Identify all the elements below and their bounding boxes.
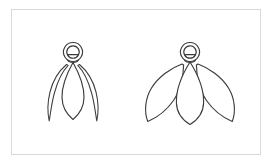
left-figure [48,43,98,122]
left-figure-head-ring-icon [63,43,82,62]
figure-canvas [0,0,270,168]
left-figure-center-petal-icon [62,63,84,120]
right-figure-head-ring-icon [180,43,199,62]
right-figure [146,43,235,125]
figure-drawing [0,0,270,168]
